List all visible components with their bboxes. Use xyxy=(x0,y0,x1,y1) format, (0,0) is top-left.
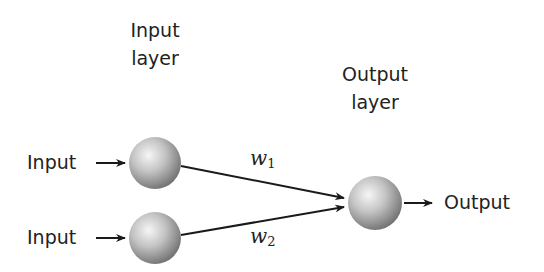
weight-label-2: w2 xyxy=(250,226,275,248)
input-label-2: Input xyxy=(27,228,76,247)
weight-label-1: w1 xyxy=(250,148,275,170)
input-node-2 xyxy=(129,212,181,264)
input-layer-title: Input layer xyxy=(95,16,215,72)
input-label-1: Input xyxy=(27,153,76,172)
weight-symbol-1: w xyxy=(250,146,267,170)
output-layer-title-line2: layer xyxy=(315,88,435,116)
input-node-1 xyxy=(129,137,181,189)
input-layer-title-line1: Input xyxy=(95,16,215,44)
output-label: Output xyxy=(444,193,510,212)
input-layer-title-line2: layer xyxy=(95,44,215,72)
output-layer-title-line1: Output xyxy=(315,60,435,88)
weight-subscript-2: 2 xyxy=(267,234,275,249)
output-node xyxy=(348,176,402,230)
perceptron-diagram: Input layer Output layer Input Input Out… xyxy=(0,0,544,272)
output-layer-title: Output layer xyxy=(315,60,435,116)
weight-symbol-2: w xyxy=(250,224,267,248)
weight-connection-1 xyxy=(181,166,344,198)
weight-subscript-1: 1 xyxy=(267,156,275,171)
